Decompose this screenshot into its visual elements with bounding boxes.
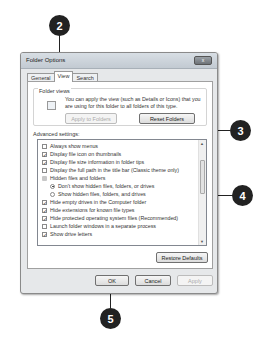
checkbox-checked[interactable]: ✓	[42, 216, 47, 221]
checkbox-checked[interactable]: ✓	[42, 160, 47, 165]
folder-views-label: Folder views	[38, 88, 71, 94]
view-panel: Folder views You can apply the view (suc…	[27, 81, 213, 269]
setting-show-hidden[interactable]: Show hidden files, folders, and drives	[50, 190, 146, 198]
checkbox-checked[interactable]: ✓	[42, 200, 47, 205]
title-bar: Folder Options x	[21, 53, 217, 69]
setting-hide-extensions[interactable]: ✓Hide extensions for known file types	[42, 206, 135, 214]
setting-display-file-size[interactable]: ✓Display file size information in folder…	[42, 158, 144, 166]
callout-5: 5	[100, 308, 121, 329]
setting-hidden-files-folder: Hidden files and folders	[42, 174, 105, 182]
folder-options-dialog: Folder Options x General View Search Fol…	[20, 52, 218, 294]
folder-views-description: You can apply the view (such as Details …	[65, 96, 205, 109]
setting-always-show-menus[interactable]: Always show menus	[42, 142, 98, 150]
scroll-down-arrow-icon[interactable]: ▼	[200, 239, 204, 244]
setting-show-drive-letters[interactable]: ✓Show drive letters	[42, 230, 92, 238]
callout-2: 2	[49, 15, 70, 36]
setting-launch-separate-process[interactable]: Launch folder windows in a separate proc…	[42, 222, 156, 230]
folder-icon	[42, 176, 47, 181]
vertical-scrollbar[interactable]: ▲ ▼	[198, 140, 206, 245]
close-button[interactable]: x	[194, 56, 212, 65]
advanced-settings-label: Advanced settings:	[33, 131, 79, 137]
setting-hide-protected-files[interactable]: ✓Hide protected operating system files (…	[42, 214, 178, 222]
ok-button[interactable]: OK	[95, 275, 129, 286]
checkbox-checked[interactable]: ✓	[42, 208, 47, 213]
apply-button[interactable]: Apply	[177, 275, 213, 286]
checkbox-checked[interactable]: ✓	[42, 232, 47, 237]
setting-hide-empty-drives[interactable]: ✓Hide empty drives in the Computer folde…	[42, 198, 146, 206]
checkbox[interactable]	[42, 144, 47, 149]
callout-4: 4	[232, 185, 253, 206]
tab-view[interactable]: View	[54, 71, 74, 82]
setting-display-file-icon[interactable]: ✓Display file icon on thumbnails	[42, 150, 121, 158]
reset-folders-button[interactable]: Reset Folders	[139, 113, 195, 124]
setting-display-full-path[interactable]: Display the full path in the title bar (…	[42, 166, 179, 174]
scroll-up-arrow-icon[interactable]: ▲	[200, 141, 204, 146]
dialog-title: Folder Options	[26, 57, 65, 63]
folder-views-group: Folder views You can apply the view (suc…	[33, 88, 207, 126]
checkbox[interactable]	[42, 168, 47, 173]
apply-to-folders-button[interactable]: Apply to Folders	[65, 113, 117, 124]
folder-view-icon	[47, 101, 56, 110]
radio-selected[interactable]	[50, 184, 55, 189]
cancel-button[interactable]: Cancel	[135, 275, 171, 286]
setting-dont-show-hidden[interactable]: Don't show hidden files, folders, or dri…	[50, 182, 154, 190]
advanced-settings-list[interactable]: Always show menus ✓Display file icon on …	[37, 139, 207, 246]
callout-3: 3	[230, 120, 251, 141]
scroll-thumb[interactable]	[200, 160, 205, 194]
close-icon: x	[202, 57, 205, 63]
radio[interactable]	[50, 192, 55, 197]
checkbox-checked[interactable]: ✓	[42, 152, 47, 157]
restore-defaults-button[interactable]: Restore Defaults	[156, 252, 208, 263]
checkbox[interactable]	[42, 224, 47, 229]
